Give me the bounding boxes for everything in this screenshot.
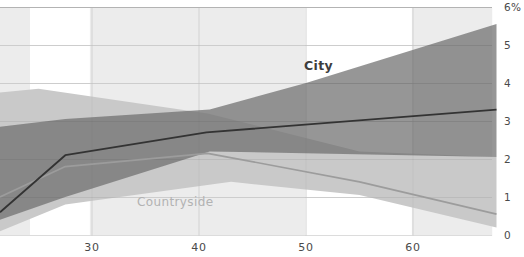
x-axis-tick-labels: 30405060 [84,241,421,254]
line-chart-with-confidence-bands: CityCountryside 0123456% 30405060 [0,0,524,257]
y-axis-tick-labels: 0123456% [504,1,521,241]
x-tick-label: 60 [405,241,421,254]
chart-container: CityCountryside 0123456% 30405060 [0,0,524,257]
x-tick-label: 40 [191,241,207,254]
y-tick-label: 0 [504,229,511,241]
x-tick-label: 30 [84,241,100,254]
city-series-label: City [304,58,333,73]
y-tick-label: 1 [504,191,511,203]
y-tick-label: 5 [504,39,511,51]
countryside-series-label: Countryside [137,195,214,209]
y-tick-label: 3 [504,115,511,127]
y-tick-label: 6% [504,1,521,13]
y-tick-label: 4 [504,77,511,89]
y-tick-label: 2 [504,153,511,165]
x-tick-label: 50 [298,241,314,254]
